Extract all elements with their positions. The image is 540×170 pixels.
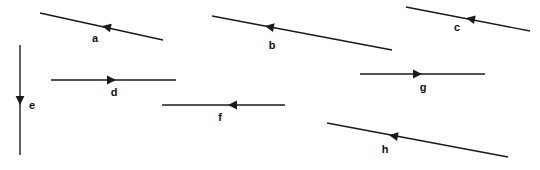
- vector-f: [162, 101, 285, 110]
- vector-g: [360, 70, 485, 79]
- vector-label-f: f: [218, 112, 222, 123]
- vector-label-h: h: [382, 144, 389, 155]
- vector-arrowhead-h: [388, 131, 398, 141]
- vector-label-b: b: [269, 40, 276, 51]
- vector-h: [327, 123, 508, 157]
- vector-arrowhead-d: [107, 76, 116, 85]
- vector-label-c: c: [454, 22, 460, 33]
- vector-label-g: g: [420, 82, 427, 93]
- vector-label-a: a: [92, 33, 98, 44]
- vector-label-d: d: [111, 87, 118, 98]
- vector-b: [212, 16, 392, 50]
- vector-arrowhead-g: [413, 70, 422, 79]
- vector-arrowhead-f: [228, 101, 237, 110]
- vector-line-a: [40, 13, 163, 40]
- vector-line-b: [212, 16, 392, 50]
- vector-label-e: e: [29, 100, 35, 111]
- vector-e: [16, 45, 25, 155]
- vector-arrowhead-e: [16, 96, 25, 105]
- vector-d: [51, 76, 176, 85]
- vector-a: [40, 13, 163, 40]
- vector-line-h: [327, 123, 508, 157]
- vector-c: [406, 7, 530, 31]
- vector-diagram: abcdefgh: [0, 0, 540, 170]
